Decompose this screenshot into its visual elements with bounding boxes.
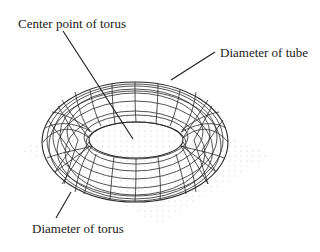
ground-grid <box>20 95 270 225</box>
label-center-point: Center point of torus <box>18 17 126 31</box>
torus-diagram: Center point of torus Diameter of tube D… <box>0 0 320 252</box>
label-tube-diameter: Diameter of tube <box>220 46 308 60</box>
torus-drawing <box>0 0 320 252</box>
leader-torus-diameter <box>56 192 71 218</box>
leader-tube-diameter <box>171 52 215 80</box>
label-torus-diameter: Diameter of torus <box>32 222 124 236</box>
